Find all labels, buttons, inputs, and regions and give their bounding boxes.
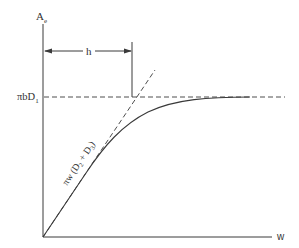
h-dimension: h	[44, 45, 132, 57]
arrow-left-icon	[44, 49, 52, 54]
h-label: h	[86, 45, 92, 57]
area-vs-width-diagram: Ae w πbD1 h πw (D2 + D3)	[0, 0, 299, 248]
arrow-right-icon	[124, 49, 132, 54]
x-axis-label: w	[276, 231, 285, 242]
y-axis-label: Ae	[36, 10, 47, 25]
asymptote-label: πbD1	[17, 91, 39, 105]
